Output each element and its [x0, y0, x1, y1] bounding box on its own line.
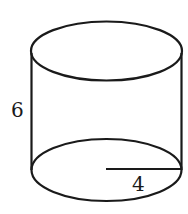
- height-label: 6: [11, 98, 24, 122]
- top-ellipse: [31, 22, 182, 81]
- cylinder-diagram: 6 4: [0, 0, 188, 214]
- cylinder-svg: 6 4: [0, 0, 188, 214]
- radius-label: 4: [132, 172, 145, 196]
